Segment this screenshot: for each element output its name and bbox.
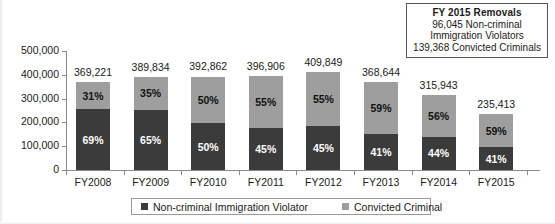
bar-total-label-fy2015: 235,413 <box>466 98 526 110</box>
bar-total-label-fy2012: 409,849 <box>293 56 353 68</box>
x-category-label-fy2014: FY2014 <box>409 176 469 188</box>
bar-segment-noncriminal-fy2011: 45% <box>249 128 283 171</box>
y-tick-mark-0 <box>62 170 67 171</box>
y-tick-label-200000: 200,000 <box>21 115 59 127</box>
bar-total-label-fy2010: 392,862 <box>178 60 238 72</box>
bar-fy2008[interactable]: 31%69% <box>76 82 110 170</box>
y-tick-mark-500000 <box>62 51 67 52</box>
legend-label-convicted: Convicted Criminal <box>354 201 442 213</box>
bar-percent-label-convicted: 59% <box>479 125 513 137</box>
bar-fy2011[interactable]: 55%45% <box>249 76 283 170</box>
callout-line-3: 139,368 Convicted Criminals <box>409 42 545 54</box>
bar-percent-label-noncriminal: 50% <box>191 141 225 153</box>
y-tick-label-400000: 400,000 <box>21 68 59 80</box>
y-tick-label-0: 0 <box>53 163 59 175</box>
callout-title: FY 2015 Removals <box>409 7 545 19</box>
y-tick-mark-100000 <box>62 146 67 147</box>
bar-fy2013[interactable]: 59%41% <box>364 82 398 170</box>
bar-percent-label-convicted: 31% <box>76 90 110 102</box>
x-tick-mark-6 <box>412 170 413 175</box>
legend-swatch-noncriminal <box>141 203 148 210</box>
bar-segment-convicted-fy2008: 31% <box>76 82 110 109</box>
bar-segment-convicted-fy2010: 50% <box>191 77 225 124</box>
bar-fy2012[interactable]: 55%45% <box>306 72 340 170</box>
bar-segment-convicted-fy2015: 59% <box>479 114 513 147</box>
bar-percent-label-noncriminal: 45% <box>306 142 340 154</box>
bar-total-label-fy2014: 315,943 <box>409 79 469 91</box>
legend-item-noncriminal: Non-criminal Immigration Violator <box>141 201 308 213</box>
x-tick-mark-7 <box>469 170 470 175</box>
fy2015-removals-callout: FY 2015 Removals 96,045 Non-criminal Imm… <box>406 3 548 58</box>
bar-percent-label-noncriminal: 41% <box>479 153 513 165</box>
bar-segment-noncriminal-fy2012: 45% <box>306 126 340 170</box>
bar-segment-noncriminal-fy2010: 50% <box>191 123 225 170</box>
bar-percent-label-convicted: 55% <box>306 93 340 105</box>
x-tick-mark-3 <box>239 170 240 175</box>
x-tick-mark-5 <box>354 170 355 175</box>
y-tick-mark-300000 <box>62 99 67 100</box>
bar-fy2010[interactable]: 50%50% <box>191 77 225 171</box>
bar-percent-label-noncriminal: 44% <box>422 147 456 159</box>
bar-fy2015[interactable]: 59%41% <box>479 114 513 170</box>
x-tick-mark-8 <box>527 170 528 175</box>
bar-percent-label-convicted: 59% <box>364 102 398 114</box>
bar-percent-label-convicted: 35% <box>134 87 168 99</box>
bar-total-label-fy2009: 389,834 <box>121 61 181 73</box>
bar-fy2009[interactable]: 35%65% <box>134 77 168 170</box>
chart-legend: Non-criminal Immigration Violator Convic… <box>131 198 431 215</box>
x-category-label-fy2015: FY2015 <box>466 176 526 188</box>
x-category-label-fy2011: FY2011 <box>236 176 296 188</box>
bar-segment-convicted-fy2009: 35% <box>134 77 168 109</box>
bar-segment-noncriminal-fy2014: 44% <box>422 137 456 170</box>
callout-line-2: Immigration Violators <box>409 30 545 42</box>
bar-segment-noncriminal-fy2009: 65% <box>134 110 168 170</box>
bar-percent-label-noncriminal: 65% <box>134 134 168 146</box>
bar-percent-label-convicted: 50% <box>191 94 225 106</box>
bar-total-label-fy2011: 396,906 <box>236 60 296 72</box>
x-category-label-fy2008: FY2008 <box>63 176 123 188</box>
bar-segment-convicted-fy2014: 56% <box>422 95 456 137</box>
bar-percent-label-noncriminal: 45% <box>249 143 283 155</box>
y-tick-mark-400000 <box>62 75 67 76</box>
x-tick-mark-2 <box>181 170 182 175</box>
x-category-label-fy2012: FY2012 <box>293 176 353 188</box>
stacked-bar-chart: FY 2015 Removals 96,045 Non-criminal Imm… <box>0 0 555 224</box>
bar-percent-label-noncriminal: 41% <box>364 146 398 158</box>
bar-percent-label-convicted: 56% <box>422 110 456 122</box>
y-axis-tick-labels: 0100,000200,000300,000400,000500,000 <box>0 0 59 224</box>
bar-percent-label-noncriminal: 69% <box>76 134 110 146</box>
y-tick-label-500000: 500,000 <box>21 44 59 56</box>
bar-total-label-fy2013: 368,644 <box>351 66 411 78</box>
legend-item-convicted: Convicted Criminal <box>342 201 442 213</box>
bar-percent-label-convicted: 55% <box>249 96 283 108</box>
y-tick-label-100000: 100,000 <box>21 139 59 151</box>
x-category-label-fy2009: FY2009 <box>121 176 181 188</box>
bar-segment-convicted-fy2011: 55% <box>249 76 283 128</box>
bar-fy2014[interactable]: 56%44% <box>422 95 456 170</box>
bar-segment-noncriminal-fy2013: 41% <box>364 134 398 170</box>
x-tick-mark-1 <box>124 170 125 175</box>
bar-segment-noncriminal-fy2015: 41% <box>479 147 513 170</box>
legend-label-noncriminal: Non-criminal Immigration Violator <box>153 201 308 213</box>
bar-segment-convicted-fy2012: 55% <box>306 72 340 126</box>
bar-total-label-fy2008: 369,221 <box>63 66 123 78</box>
x-tick-mark-4 <box>296 170 297 175</box>
callout-line-1: 96,045 Non-criminal <box>409 19 545 31</box>
x-category-label-fy2010: FY2010 <box>178 176 238 188</box>
y-tick-label-300000: 300,000 <box>21 92 59 104</box>
page-bottom-edge <box>0 222 555 224</box>
legend-swatch-convicted <box>342 203 349 210</box>
bar-segment-noncriminal-fy2008: 69% <box>76 109 110 170</box>
x-category-label-fy2013: FY2013 <box>351 176 411 188</box>
y-tick-mark-200000 <box>62 122 67 123</box>
bar-segment-convicted-fy2013: 59% <box>364 82 398 134</box>
